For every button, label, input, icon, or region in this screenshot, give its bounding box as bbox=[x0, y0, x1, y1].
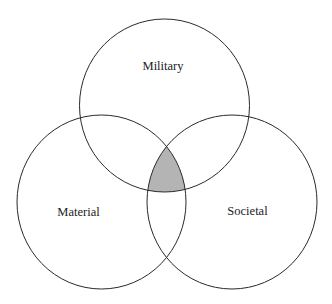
societal-label: Societal bbox=[227, 204, 268, 218]
triple-intersection-group bbox=[147, 115, 317, 289]
material-circle bbox=[17, 115, 186, 289]
societal-circle bbox=[147, 115, 317, 289]
venn-diagram: Military Material Societal bbox=[0, 0, 332, 304]
triple-intersection-region bbox=[147, 115, 317, 289]
military-label: Military bbox=[143, 59, 185, 73]
material-label: Material bbox=[57, 205, 100, 219]
